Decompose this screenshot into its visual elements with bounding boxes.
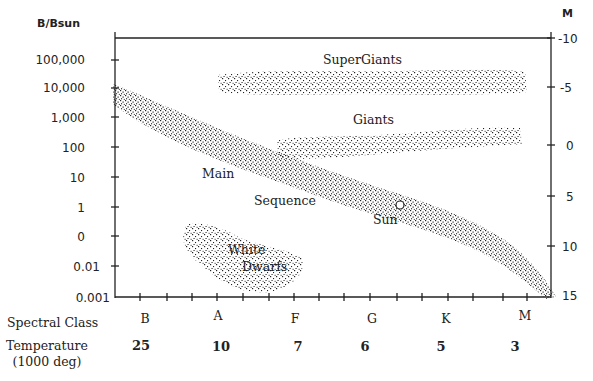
main-sequence-region bbox=[113, 84, 556, 299]
sun-marker-icon bbox=[396, 201, 404, 209]
svg-text:Temperature: Temperature bbox=[6, 338, 88, 353]
svg-text:10: 10 bbox=[562, 240, 577, 254]
svg-text:-10: -10 bbox=[558, 32, 578, 46]
hr-diagram: B/Bsun M 100,000 10,000 1,000 100 10 1 0… bbox=[0, 0, 593, 381]
supergiants-label: SuperGiants bbox=[323, 52, 402, 67]
left-axis-title: B/Bsun bbox=[37, 17, 80, 30]
svg-text:6: 6 bbox=[360, 339, 369, 354]
svg-text:K: K bbox=[441, 311, 451, 326]
svg-text:0.001: 0.001 bbox=[76, 291, 110, 305]
svg-text:5: 5 bbox=[566, 190, 574, 204]
svg-text:7: 7 bbox=[293, 339, 302, 354]
dwarfs-label: Dwarfs bbox=[242, 259, 287, 274]
svg-text:0: 0 bbox=[566, 139, 574, 153]
giants-region bbox=[277, 128, 522, 159]
svg-text:F: F bbox=[291, 311, 300, 326]
svg-text:M: M bbox=[519, 308, 532, 323]
giants-label: Giants bbox=[353, 112, 394, 127]
svg-text:B: B bbox=[140, 311, 149, 326]
temperature-row: Temperature (1000 deg) 25 10 7 6 5 3 bbox=[6, 338, 519, 369]
svg-text:Spectral Class: Spectral Class bbox=[7, 315, 98, 330]
svg-text:-5: -5 bbox=[560, 81, 572, 95]
svg-text:100: 100 bbox=[62, 141, 85, 155]
svg-text:0: 0 bbox=[77, 230, 85, 244]
svg-text:15: 15 bbox=[562, 289, 577, 303]
svg-text:1,000: 1,000 bbox=[51, 111, 85, 125]
svg-text:10: 10 bbox=[212, 339, 230, 354]
svg-text:(1000 deg): (1000 deg) bbox=[13, 354, 82, 369]
right-axis-title: M bbox=[562, 7, 573, 20]
star-regions bbox=[113, 70, 556, 299]
svg-text:G: G bbox=[367, 311, 377, 326]
svg-text:5: 5 bbox=[436, 339, 445, 354]
svg-text:100,000: 100,000 bbox=[35, 53, 85, 67]
spectral-class-row: Spectral Class B A F G K M bbox=[7, 308, 532, 330]
main-label: Main bbox=[202, 166, 234, 181]
left-tick-labels: 100,000 10,000 1,000 100 10 1 0 0.01 0.0… bbox=[35, 53, 110, 305]
svg-text:1: 1 bbox=[77, 201, 85, 215]
svg-text:0.01: 0.01 bbox=[73, 260, 100, 274]
svg-text:10: 10 bbox=[70, 171, 85, 185]
svg-text:10,000: 10,000 bbox=[43, 81, 85, 95]
sun-label: Sun bbox=[373, 212, 398, 227]
white-label: White bbox=[228, 242, 265, 257]
svg-text:A: A bbox=[212, 308, 223, 323]
svg-text:3: 3 bbox=[510, 339, 519, 354]
right-tick-labels: -10 -5 0 5 10 15 bbox=[558, 32, 578, 303]
white-dwarfs-region bbox=[183, 223, 303, 292]
supergiants-region bbox=[218, 70, 527, 95]
sequence-label: Sequence bbox=[254, 193, 316, 208]
svg-text:25: 25 bbox=[132, 338, 150, 353]
